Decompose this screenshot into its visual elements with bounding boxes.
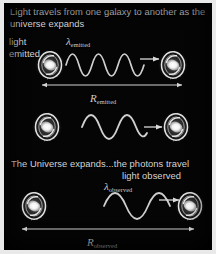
galaxy-emitter-row2 [32, 112, 62, 142]
galaxy-receiver-row3 [175, 191, 205, 221]
light-wave-observed [104, 193, 170, 219]
galaxy-receiver-row1 [158, 50, 188, 80]
light-wave-emitted [66, 54, 144, 76]
figure-frame: Light travels from one galaxy to another… [0, 0, 216, 254]
galaxy-emitter-row3 [19, 191, 49, 221]
galaxy-receiver-row2 [161, 112, 191, 142]
diagram-graphics [4, 3, 212, 250]
galaxy-emitter-row1 [35, 50, 65, 80]
light-wave-travelling [82, 115, 147, 139]
diagram-panel: Light travels from one galaxy to another… [4, 3, 212, 250]
